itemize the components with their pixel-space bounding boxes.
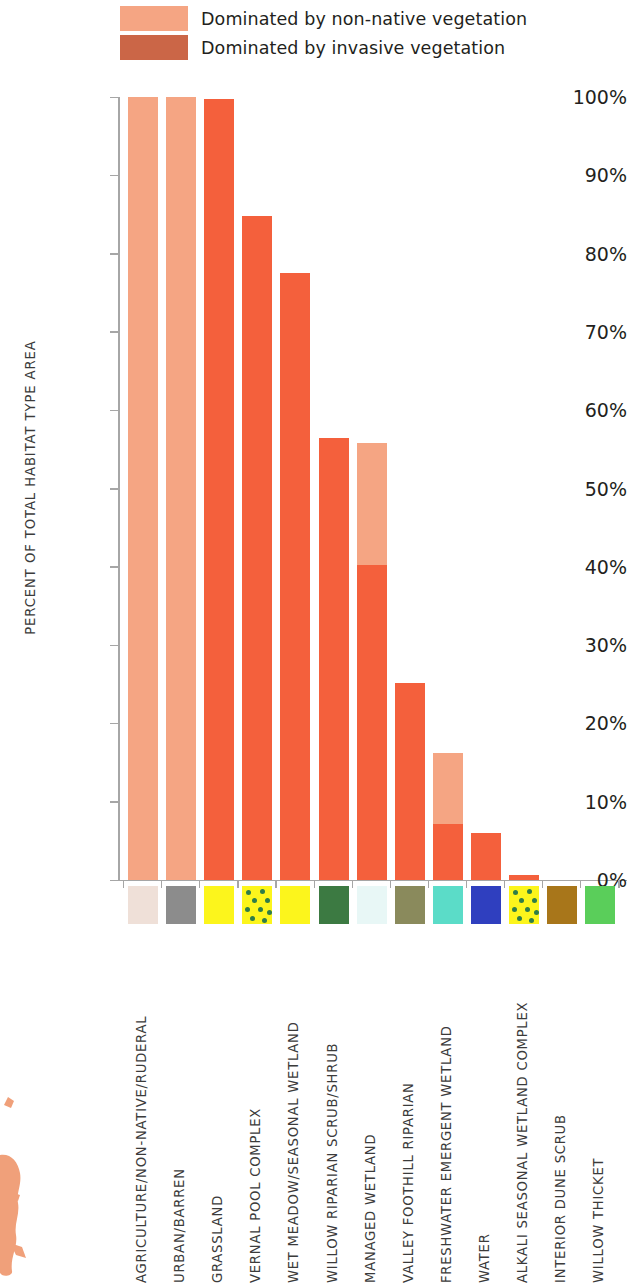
x-axis-label: WET MEADOW/SEASONAL WETLAND — [286, 953, 301, 1283]
y-tick-mark-10 — [110, 801, 118, 803]
x-tick-mark-3 — [237, 880, 238, 888]
x-tick-mark-12 — [580, 880, 581, 888]
habitat-swatch — [319, 886, 349, 924]
bar-column[interactable] — [280, 97, 310, 880]
habitat-swatch — [128, 886, 158, 924]
bar-column[interactable] — [319, 97, 349, 880]
x-tick-mark-13 — [618, 880, 619, 888]
x-axis-label: INTERIOR DUNE SCRUB — [553, 953, 568, 1283]
y-axis-line — [118, 97, 120, 881]
bar-segment-invasive[interactable] — [471, 833, 501, 880]
x-axis-label: WATER — [477, 953, 492, 1283]
y-tick-mark-60 — [110, 410, 118, 412]
x-tick-mark-0 — [123, 880, 124, 888]
habitat-swatch — [585, 886, 615, 924]
x-tick-mark-7 — [390, 880, 391, 888]
x-tick-mark-4 — [275, 880, 276, 888]
x-axis-label: MANAGED WETLAND — [363, 953, 378, 1283]
habitat-swatch — [471, 886, 501, 924]
habitat-swatch — [166, 886, 196, 924]
y-tick-mark-90 — [110, 175, 118, 177]
bar-segment-invasive[interactable] — [357, 565, 387, 880]
y-tick-mark-70 — [110, 331, 118, 333]
bar-column[interactable] — [547, 97, 577, 880]
bar-column[interactable] — [128, 97, 158, 880]
y-axis-label: PERCENT OF TOTAL HABITAT TYPE AREA — [23, 268, 38, 708]
x-tick-mark-9 — [466, 880, 467, 888]
y-tick-mark-30 — [110, 645, 118, 647]
x-axis-label: ALKALI SEASONAL WETLAND COMPLEX — [515, 953, 530, 1283]
habitat-swatch — [280, 886, 310, 924]
swatch-dot-pattern — [509, 886, 539, 924]
x-axis-label: AGRICULTURE/NON-NATIVE/RUDERAL — [134, 953, 149, 1283]
y-tick-mark-40 — [110, 566, 118, 568]
x-axis-label: GRASSLAND — [210, 953, 225, 1283]
bar-segment-nonnative[interactable] — [433, 753, 463, 824]
y-tick-mark-100 — [110, 97, 118, 99]
bar-column[interactable] — [585, 97, 615, 880]
x-tick-mark-11 — [542, 880, 543, 888]
bar-column[interactable] — [204, 97, 234, 880]
habitat-swatch — [242, 886, 272, 924]
x-axis-label: VALLEY FOOTHILL RIPARIAN — [401, 953, 416, 1283]
x-axis-label: WILLOW RIPARIAN SCRUB/SHRUB — [325, 953, 340, 1283]
bar-segment-invasive[interactable] — [319, 438, 349, 880]
bar-column[interactable] — [509, 97, 539, 880]
bar-column[interactable] — [166, 97, 196, 880]
bar-segment-invasive[interactable] — [509, 875, 539, 880]
bar-column[interactable] — [471, 97, 501, 880]
bar-column[interactable] — [242, 97, 272, 880]
y-tick-mark-80 — [110, 253, 118, 255]
bar-column[interactable] — [395, 97, 425, 880]
x-axis-label: WILLOW THICKET — [591, 953, 606, 1283]
x-tick-mark-1 — [161, 880, 162, 888]
bar-segment-invasive[interactable] — [280, 273, 310, 880]
x-tick-mark-5 — [314, 880, 315, 888]
bar-segment-invasive[interactable] — [242, 216, 272, 880]
swatch-dot-pattern — [242, 886, 272, 924]
x-axis-label: VERNAL POOL COMPLEX — [248, 953, 263, 1283]
y-tick-mark-50 — [110, 488, 118, 490]
x-tick-mark-10 — [504, 880, 505, 888]
habitat-swatch — [395, 886, 425, 924]
habitat-swatch — [509, 886, 539, 924]
x-tick-mark-8 — [428, 880, 429, 888]
x-axis-label: FRESHWATER EMERGENT WETLAND — [439, 953, 454, 1283]
y-tick-mark-0 — [110, 880, 118, 882]
bar-segment-nonnative[interactable] — [166, 97, 196, 880]
x-axis-label: URBAN/BARREN — [172, 953, 187, 1283]
x-tick-mark-6 — [352, 880, 353, 888]
bar-segment-nonnative[interactable] — [128, 97, 158, 880]
habitat-swatch — [357, 886, 387, 924]
bar-segment-invasive[interactable] — [433, 824, 463, 880]
map-fragment — [0, 1095, 34, 1277]
habitat-swatch — [433, 886, 463, 924]
bar-segment-invasive[interactable] — [204, 99, 234, 880]
bar-segment-nonnative[interactable] — [357, 443, 387, 565]
bar-segment-invasive[interactable] — [395, 683, 425, 880]
habitat-swatch — [547, 886, 577, 924]
bar-column[interactable] — [357, 97, 387, 880]
y-tick-mark-20 — [110, 723, 118, 725]
x-tick-mark-2 — [199, 880, 200, 888]
bar-column[interactable] — [433, 97, 463, 880]
habitat-swatch — [204, 886, 234, 924]
